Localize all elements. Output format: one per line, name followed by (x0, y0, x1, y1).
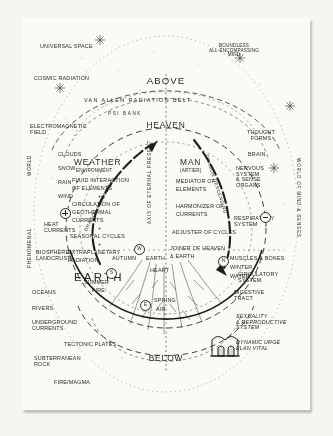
label-man-line-5: JOINER OF HEAVEN (170, 246, 225, 252)
label-edge-world-of-mind: WORLD OF MIND & SENSES (295, 158, 300, 238)
label-edge-world: WORLD (28, 155, 33, 176)
label-north-element: WATER (230, 274, 250, 280)
label-van-allen-belt: VAN ALLEN RADIATION BELT (84, 98, 192, 104)
label-nervous-system: NERVOUS SYSTEM & SENSE ORGANS (236, 166, 264, 188)
label-man-title: MAN (180, 158, 201, 167)
label-underground-currents: UNDERGROUND CURRENTS (32, 320, 77, 331)
label-digestive-tract: DIGESTIVE TRACT (234, 290, 265, 301)
label-man-line-3: CURRENTS (176, 212, 208, 218)
label-west-element: EARTH (146, 256, 165, 262)
label-man-subtitle: (ARTIER) (180, 169, 201, 174)
label-weather-plus-2: + (98, 226, 101, 232)
label-electromagnetic-field: ELECTROMAGNETIC FIELD (30, 124, 87, 135)
label-spring: SPRING (154, 298, 176, 304)
compass-node-west[interactable]: W (134, 244, 145, 255)
label-sexuality-reproductive: SEXUALITY & REPRODUCTIVE SYSTEM (236, 314, 287, 331)
label-tectonic-plates: TECTONIC PLATES (64, 342, 116, 348)
label-oceans: OCEANS (32, 290, 56, 296)
label-snow: SNOW (58, 166, 76, 172)
label-east-element: AIR (156, 307, 166, 313)
label-fire-magma: FIRE/MAGMA (54, 380, 90, 386)
label-muscles-bones: MUSCLES & BONES (230, 256, 285, 262)
label-brain: BRAIN (248, 152, 265, 158)
label-man-line-0: MEDIATOR OF (176, 179, 215, 185)
polarity-positive-node[interactable] (60, 208, 71, 219)
label-cosmic-radiation: COSMIC RADIATION (34, 76, 89, 82)
label-above: ABOVE (126, 76, 206, 86)
label-weather-line-10: RADIATION (68, 258, 99, 264)
label-man-line-1: ELEMENTS (176, 187, 207, 193)
label-thought-forms: THOUGHT FORMS (234, 130, 288, 141)
compass-node-south[interactable]: S (106, 268, 117, 279)
screenshot-root: UNIVERSAL SPACE COSMIC RADIATION BOUNDLE… (0, 0, 333, 436)
label-axis-of-eternal-present: AXIS OF ETERNAL PRESENT (148, 140, 153, 224)
label-weather-line-0: FLUID INTERACTION (72, 178, 129, 184)
label-man-line-6: & EARTH (170, 254, 195, 260)
diagram-stage: UNIVERSAL SPACE COSMIC RADIATION BOUNDLE… (22, 18, 310, 410)
label-autumn: AUTUMN (112, 256, 136, 262)
label-heat-currents: HEAT CURRENTS (44, 222, 76, 233)
label-subterranean-rock: SUBTERRANEAN ROCK (34, 356, 81, 367)
label-weather-plus-3: + (98, 242, 101, 248)
label-dynamic-urge: DYNAMIC URGE ELAN VITAL (236, 340, 280, 351)
label-weather-subtitle: ENVIRONMENT (76, 169, 112, 174)
label-boundless-mind: BOUNDLESS ALL-ENCOMPASSING MIND (194, 44, 274, 58)
compass-node-north[interactable]: N (218, 256, 229, 267)
label-biosphere-landcrust: BIOSPHERE LANDCRUST (36, 250, 71, 261)
label-rivers: RIVERS (32, 306, 53, 312)
label-universal-space: UNIVERSAL SPACE (40, 44, 93, 50)
diagram-plate: UNIVERSAL SPACE COSMIC RADIATION BOUNDLE… (22, 18, 310, 410)
label-edge-phenomenal: PHENOMENAL (28, 228, 33, 268)
label-winter: WINTER (230, 265, 252, 271)
label-south-element: FIRE (92, 288, 105, 294)
polarity-negative-node[interactable] (260, 212, 271, 223)
label-heart: HEART (150, 268, 169, 274)
label-wind: WIND (58, 194, 73, 200)
label-psi-bank: PSI BANK (108, 112, 142, 117)
label-man-line-4: ADJUSTER OF CYCLES (172, 230, 236, 236)
label-below: BELOW (126, 354, 206, 363)
label-heaven: HEAVEN (122, 121, 210, 130)
label-weather-title: WEATHER (74, 158, 122, 167)
label-summer: SUMMER (84, 280, 109, 286)
compass-node-east[interactable]: E (140, 300, 151, 311)
label-man-line-2: HARMONIZER OF (176, 204, 224, 210)
label-rain: RAIN (58, 180, 72, 186)
label-weather-line-7: SEASONAL CYCLES (70, 234, 125, 240)
